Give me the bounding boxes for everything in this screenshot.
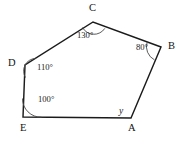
vertex-label-b: B <box>168 41 175 52</box>
vertex-label-c: C <box>89 3 96 14</box>
angle-label-a-unknown: y <box>119 107 123 117</box>
pentagon-drawing <box>0 0 187 142</box>
angle-label-c: 130° <box>77 31 93 40</box>
angle-label-b: 80° <box>136 43 148 52</box>
angle-label-d: 110° <box>37 63 53 72</box>
vertex-label-d: D <box>8 58 16 69</box>
geometry-figure-pentagon: A B C D E 130° 80° 110° 100° y <box>0 0 187 142</box>
vertex-label-a: A <box>128 123 136 134</box>
vertex-label-e: E <box>20 123 26 134</box>
angle-label-e: 100° <box>38 95 54 104</box>
